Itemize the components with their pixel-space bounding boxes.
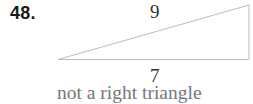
side-label-long: 9 <box>150 2 160 21</box>
answer-caption: not a right triangle <box>57 83 202 103</box>
